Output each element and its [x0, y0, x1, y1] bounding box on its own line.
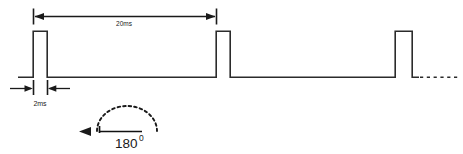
diagram-canvas: 20ms 2ms [0, 0, 463, 154]
waveform-group [18, 31, 459, 77]
pulse-width-dimension-group: 2ms [10, 80, 70, 107]
period-right-arrowhead-icon [206, 13, 216, 20]
pulse-width-label: 2ms [33, 100, 47, 107]
pulse-train-waveform [18, 31, 419, 77]
rotation-indicator-group: 180 0 [79, 106, 157, 151]
period-left-arrowhead-icon [35, 13, 45, 20]
pulse-width-left-arrowhead-icon [25, 85, 33, 92]
rotation-angle-label: 180 [115, 136, 138, 151]
rotation-degree-symbol: 0 [139, 133, 144, 143]
rotation-arc-dashed-icon [97, 106, 157, 131]
rotation-left-arrowhead-icon [79, 127, 91, 136]
pulse-timing-diagram: 20ms 2ms [0, 0, 463, 154]
period-dimension-group: 20ms [34, 9, 217, 28]
period-label: 20ms [116, 20, 133, 27]
pulse-width-right-arrowhead-icon [48, 85, 56, 92]
